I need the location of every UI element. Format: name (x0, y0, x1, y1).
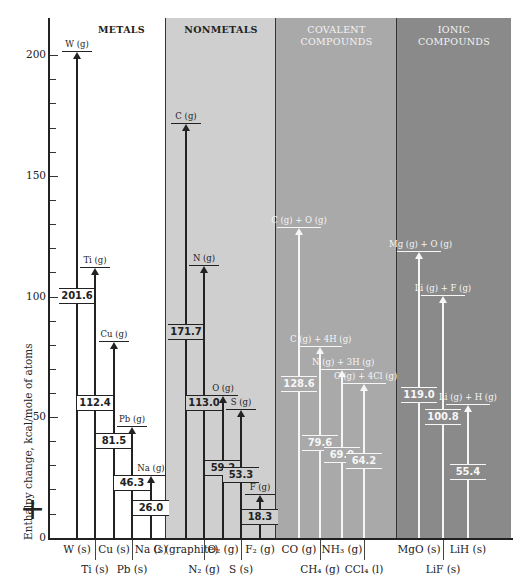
gas-label-na: Na (g) (128, 463, 174, 473)
panel-title-covalent-2: COMPOUNDS (276, 36, 397, 48)
gas-label-ti: Ti (g) (72, 255, 118, 265)
panel-title-covalent: COVALENT COMPOUNDS (276, 24, 397, 48)
gas-label-mgo: Mg (g) + O (g) (389, 239, 449, 249)
tick-minor (50, 441, 56, 442)
value-label-co: 128.6 (281, 376, 317, 392)
tick-minor (50, 514, 56, 515)
tick-minor (50, 393, 56, 394)
solid-label-pb: Pb (s) (92, 563, 172, 575)
tick-minor (50, 489, 56, 490)
tick-label-200: 200 (14, 48, 46, 60)
gas-level-line (226, 409, 256, 410)
value-label-na: 26.0 (133, 500, 169, 516)
gas-label-co: C (g) + O (g) (269, 215, 329, 225)
tick-50 (50, 417, 58, 418)
gas-level-line (171, 123, 201, 124)
tick-minor (50, 224, 56, 225)
value-label-lif: 100.8 (425, 409, 461, 425)
arrowhead-icon (237, 410, 245, 417)
tick-150 (50, 176, 58, 177)
gas-level-line (136, 475, 166, 476)
tick-minor (50, 345, 56, 346)
arrowhead-icon (182, 124, 190, 131)
arrowhead-icon (110, 342, 118, 349)
arrowhead-icon (128, 427, 136, 434)
gas-level-line (117, 426, 147, 427)
value-label-pb: 46.3 (114, 475, 150, 491)
gas-level-line (397, 251, 441, 252)
value-label-cu: 81.5 (96, 433, 132, 449)
panel-title-ionic-1: IONIC (397, 24, 511, 36)
tick-minor (50, 79, 56, 80)
gas-level-line (189, 265, 219, 266)
tick-minor (50, 321, 56, 322)
panel-title-metals: METALS (78, 24, 165, 36)
tick-200 (50, 55, 58, 56)
value-label-mgo: 119.0 (401, 387, 437, 403)
panel-title-ionic: IONIC COMPOUNDS (397, 24, 511, 48)
panel-title-nonmetals: NONMETALS (166, 24, 276, 36)
solid-label-s: S (s) (201, 563, 281, 575)
gas-level-line (80, 267, 110, 268)
gas-label-w: W (g) (54, 39, 100, 49)
value-label-w: 201.6 (59, 288, 95, 304)
arrowhead-icon (73, 52, 81, 59)
tick-minor (50, 103, 56, 104)
value-label-n: 113.0 (186, 395, 222, 411)
gas-label-lih: Li (g) + H (g) (438, 392, 498, 402)
gas-label-ccl4: C (g) + 4Cl (g) (334, 371, 394, 381)
tick-label-100: 100 (14, 290, 46, 302)
arrowhead-icon (256, 495, 264, 502)
tick-minor (50, 128, 56, 129)
leader-line (364, 540, 365, 560)
solid-label-lih: LiH (s) (428, 543, 508, 555)
arrowhead-icon (147, 476, 155, 483)
gas-level-line (342, 383, 386, 384)
tick-minor (50, 272, 56, 273)
solid-label-ccl4: CCl₄ (l) (324, 563, 404, 575)
gas-label-f: F (g) (237, 482, 283, 492)
panel-ionic: IONIC COMPOUNDS (396, 18, 511, 538)
tick-100 (50, 297, 58, 298)
gas-level-line (277, 227, 321, 228)
tick-minor (50, 369, 56, 370)
gas-level-line (421, 295, 465, 296)
arrowhead-icon (91, 268, 99, 275)
gas-label-n: N (g) (181, 253, 227, 263)
y-axis (48, 18, 50, 539)
gas-level-line (245, 494, 275, 495)
panel-metals: METALS (50, 18, 165, 538)
solid-label-lif: LiF (s) (403, 563, 483, 575)
tick-minor (50, 248, 56, 249)
arrowhead-icon (200, 266, 208, 273)
gas-level-line (99, 341, 129, 342)
gas-label-nh3: N (g) + 3H (g) (312, 357, 372, 367)
gas-label-pb: Pb (g) (109, 414, 155, 424)
value-label-c: 171.7 (168, 324, 204, 340)
gas-level-line (298, 346, 342, 347)
arrowhead-icon (360, 384, 368, 391)
tick-label-150: 150 (14, 169, 46, 181)
gas-level-line (446, 404, 490, 405)
arrowhead-icon (464, 405, 472, 412)
plus-sign-annotation: + (20, 494, 45, 524)
gas-label-lif: Li (g) + F (g) (413, 283, 473, 293)
gas-label-c: C (g) (163, 111, 209, 121)
gas-level-line (62, 51, 92, 52)
arrowhead-icon (316, 347, 324, 354)
panel-title-covalent-1: COVALENT (276, 24, 397, 36)
arrowhead-icon (295, 228, 303, 235)
tick-minor (50, 152, 56, 153)
value-label-lih: 55.4 (450, 464, 486, 480)
solid-label-nh3: NH₃ (g) (302, 543, 382, 555)
gas-label-s: S (g) (218, 397, 264, 407)
value-label-ti: 112.4 (77, 395, 113, 411)
arrowhead-icon (439, 296, 447, 303)
gas-label-cu: Cu (g) (91, 329, 137, 339)
gas-label-o: O (g) (200, 383, 246, 393)
tick-minor (50, 200, 56, 201)
panel-title-ionic-2: COMPOUNDS (397, 36, 511, 48)
arrowhead-icon (415, 252, 423, 259)
tick-minor (50, 465, 56, 466)
value-label-s: 53.3 (223, 467, 259, 483)
